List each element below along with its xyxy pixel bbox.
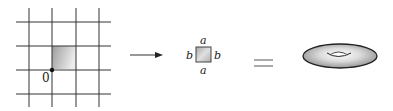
edge-label-left: b [186,49,193,62]
torus-identification-diagram: 0 a a b b [0,0,393,111]
equals-sign-icon [254,60,273,66]
identified-square: a a b b [186,34,221,77]
torus-icon [303,44,377,68]
plane-grid: 0 [16,8,111,107]
origin-dot [50,68,54,72]
fundamental-square [196,47,211,62]
origin-label: 0 [42,71,50,85]
shaded-fundamental-cell [52,46,76,69]
edge-label-top: a [200,34,207,47]
arrow-icon [130,52,163,58]
edge-label-bottom: a [200,64,207,77]
edge-label-right: b [214,49,221,62]
